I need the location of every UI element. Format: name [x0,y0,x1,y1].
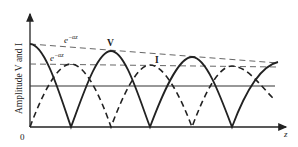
upper-envelope-label: e−αz [64,34,78,45]
current-curve [30,64,275,127]
upper-envelope-line [30,44,278,63]
origin-label: 0 [20,132,25,142]
current-label: I [155,55,159,65]
voltage-label: V [107,38,114,48]
x-axis-label: z [283,129,288,139]
standing-wave-diagram: 0 z Amplitude V and I e−αz e−αz V I [0,0,298,147]
y-axis-label: Amplitude V and I [14,43,24,114]
lower-envelope-label: e−αz [50,52,64,63]
